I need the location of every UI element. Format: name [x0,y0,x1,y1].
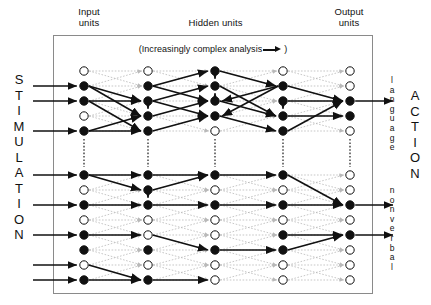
network-node-inactive [346,171,354,179]
network-node-inactive [211,186,219,194]
weak-connection [220,235,277,250]
weak-connection [220,220,277,235]
strong-connection [222,86,278,101]
network-node-inactive [279,276,287,284]
network-node-active [279,246,287,254]
network-node-active [279,231,287,239]
network-node-inactive [346,246,354,254]
network-node-inactive [346,67,354,75]
network-node-inactive [144,231,152,239]
network-node-inactive [279,67,287,75]
network-node-inactive [80,186,88,194]
network-node-active [144,97,152,105]
weak-connection [220,175,277,190]
network-node-inactive [144,216,152,224]
network-node-active [144,276,152,284]
network-node-active [279,97,287,105]
network-node-inactive [346,276,354,284]
network-node-active [144,246,152,254]
network-node-inactive [80,67,88,75]
weak-connection [220,250,277,265]
weak-connection [220,205,277,220]
network-node-inactive [211,276,219,284]
network-node-active [211,97,219,105]
network-node-inactive [279,216,287,224]
network-node-inactive [346,82,354,90]
network-node-active [80,171,88,179]
network-node-active [211,67,219,75]
network-node-active [346,201,354,209]
network-node-inactive [346,186,354,194]
network-node-active [80,82,88,90]
network-node-active [211,82,219,90]
network-node-active [144,127,152,135]
network-node-active [211,171,219,179]
network-node-inactive [279,261,287,269]
network-node-active [144,82,152,90]
network-node-active [346,112,354,120]
network-node-active [144,112,152,120]
network-node-active [346,231,354,239]
network-node-active [80,246,88,254]
network-graph [0,0,431,305]
network-node-active [80,276,88,284]
network-node-inactive [211,231,219,239]
network-node-active [80,231,88,239]
network-node-active [211,201,219,209]
network-node-active [211,246,219,254]
network-node-active [80,127,88,135]
figure-canvas: Input units Hidden units Output units (I… [0,0,431,305]
network-node-inactive [346,127,354,135]
network-node-inactive [80,112,88,120]
network-node-inactive [144,261,152,269]
network-node-active [279,201,287,209]
weak-connection [220,265,277,280]
network-node-inactive [211,216,219,224]
network-node-active [346,97,354,105]
network-node-inactive [211,127,219,135]
network-node-active [144,201,152,209]
network-node-active [279,127,287,135]
weak-connection [220,190,277,205]
network-node-active [144,186,152,194]
network-node-active [80,201,88,209]
network-node-active [279,112,287,120]
network-node-inactive [279,186,287,194]
network-node-active [211,112,219,120]
network-node-inactive [346,216,354,224]
network-node-inactive [80,261,88,269]
network-node-inactive [80,216,88,224]
network-node-active [80,97,88,105]
network-node-inactive [346,261,354,269]
network-node-active [279,171,287,179]
network-node-active [279,82,287,90]
network-node-inactive [144,67,152,75]
network-node-inactive [211,261,219,269]
network-node-active [144,171,152,179]
